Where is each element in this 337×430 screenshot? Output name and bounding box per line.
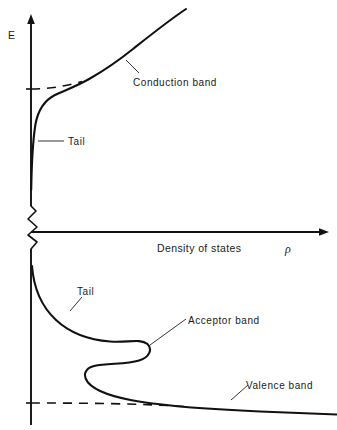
- energy-axis-arrowhead: [27, 14, 35, 24]
- tail-lower-leader: [70, 297, 82, 311]
- valence-band-label: Valence band: [246, 380, 313, 391]
- density-axis-arrowhead: [319, 228, 329, 235]
- acceptor-band-leader: [150, 319, 186, 345]
- density-axis-label: Density of states: [157, 242, 241, 254]
- conduction-band-region: Conduction band Tail: [26, 9, 217, 190]
- acceptor-band-label: Acceptor band: [188, 315, 260, 326]
- tail-lower-label: Tail: [77, 286, 94, 297]
- energy-axis-label: E: [8, 29, 15, 41]
- conduction-band-leader: [126, 60, 139, 73]
- conduction-band-label: Conduction band: [133, 77, 217, 88]
- conduction-band-curve: [31, 9, 186, 190]
- axis-break-zigzag: [28, 206, 37, 249]
- valence-band-region: Tail Acceptor band Valence band: [26, 266, 337, 415]
- density-axis-symbol: ρ: [284, 242, 291, 256]
- density-of-states-diagram: Conduction band Tail E Density of states…: [0, 0, 337, 430]
- axes-group: [27, 14, 329, 425]
- tail-upper-label: Tail: [68, 136, 85, 147]
- conduction-band-edge-dashed: [31, 82, 82, 90]
- axis-labels-group: E Density of states ρ: [8, 29, 291, 256]
